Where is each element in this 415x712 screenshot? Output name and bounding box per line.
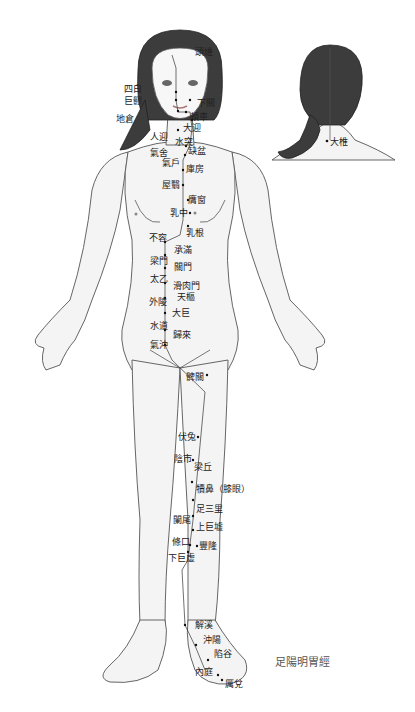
label-shuidao: 水道 [150,320,168,331]
label-chengman: 承滿 [174,244,192,255]
label-lidui: 厲兌 [225,679,243,689]
label-yinshi: 陰市 [174,453,192,464]
label-jiexi: 解溪 [195,619,213,630]
label-qishe: 氣舍 [150,147,168,158]
label-quepen: 缺盆 [188,145,206,156]
label-guanmen: 關門 [174,262,192,272]
label-chongyang: 沖陽 [203,634,221,645]
label-biguan: 髀關 [186,371,204,382]
label-xiaguan: 下關 [197,98,215,108]
label-futu: 伏兔 [178,431,196,442]
label-touwei: 頭維 [195,46,213,57]
label-juliao: 巨髎 [124,96,142,106]
diagram-title: 足陽明胃經 [275,655,330,669]
label-shangjuxu: 上巨墟 [196,521,223,532]
label-kufang: 庫房 [186,163,204,174]
label-daju: 大巨 [172,307,190,318]
label-wuyi: 屋翳 [162,180,180,190]
label-lanwei: 闌尾 [173,515,191,525]
label-dazhui: 大椎 [330,136,348,147]
label-zusanli: 足三里 [196,504,223,514]
label-ruzhong: 乳中 [170,207,188,218]
label-wailing: 外陵 [149,296,167,307]
label-xiajuxu: 下巨虛 [168,552,195,563]
label-fenglong: 豐隆 [199,540,217,551]
label-neiting: 內庭 [195,666,213,677]
label-xiangu: 陷谷 [214,648,232,659]
label-yingchuang: 膺窗 [188,194,206,205]
label-guilai: 歸來 [173,329,191,340]
label-renying: 人迎 [150,131,168,142]
front-view-figure [35,30,325,684]
label-tiaokou: 條口 [172,536,190,547]
label-jiache: 頰車 [190,111,208,122]
label-dubi: 犢鼻（膝眼） [196,483,250,494]
point-dazhui [326,140,329,143]
label-taiyi: 太乙 [150,273,168,284]
back-view-figure: 大椎 [272,45,395,160]
label-burong: 不容 [149,232,167,243]
label-dicang: 地倉 [116,113,134,124]
label-liangqiu: 梁丘 [194,461,212,472]
label-rugen: 乳根 [186,227,204,238]
label-liangmen: 梁門 [150,255,168,266]
label-qichong: 氣沖 [150,339,168,350]
label-sibai: 四白 [124,83,142,94]
label-daying: 大迎 [183,122,201,133]
label-tianshu: 天樞 [177,291,195,302]
label-huaroumen: 滑肉門 [173,280,200,291]
label-qihu: 氣戶 [162,157,180,168]
meridian-diagram: 大椎 [0,0,415,712]
